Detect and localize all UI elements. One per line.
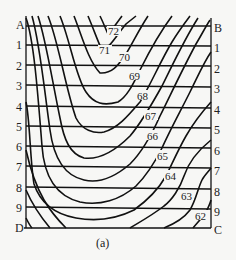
right-label-6: 6 <box>214 145 220 157</box>
row-label-3: 3 <box>16 80 22 92</box>
row-label-4: 4 <box>16 101 22 113</box>
contour-label-65: 65 <box>157 150 168 162</box>
contour-label-67: 67 <box>145 110 156 122</box>
contour-label-64: 64 <box>165 170 176 182</box>
row-label-8: 8 <box>16 182 22 194</box>
figure-caption: (a) <box>96 236 109 251</box>
right-label-C: C <box>214 224 222 236</box>
right-label-3: 3 <box>214 83 220 95</box>
row-label-6: 6 <box>16 141 22 153</box>
right-label-2: 2 <box>214 63 220 75</box>
row-label-7: 7 <box>16 161 22 173</box>
right-label-8: 8 <box>214 186 220 198</box>
right-label-4: 4 <box>214 104 220 116</box>
right-label-7: 7 <box>214 165 220 177</box>
row-label-5: 5 <box>16 121 22 133</box>
contour-label-72: 72 <box>108 25 119 37</box>
contour-label-66: 66 <box>147 130 158 142</box>
contour-label-71: 71 <box>99 44 110 56</box>
row-label-9: 9 <box>16 202 22 214</box>
contour-label-62: 62 <box>195 210 206 222</box>
contour-label-70: 70 <box>119 51 130 63</box>
contour-label-69: 69 <box>129 70 140 82</box>
contour-label-63: 63 <box>181 190 192 202</box>
right-label-9: 9 <box>214 206 220 218</box>
contour-diagram: A 1 2 3 4 5 6 7 8 9 D B 1 2 3 4 5 6 7 8 … <box>0 0 236 260</box>
row-label-2: 2 <box>16 60 22 72</box>
contour-label-68: 68 <box>137 90 148 102</box>
right-label-1: 1 <box>214 42 220 54</box>
row-label-D: D <box>15 222 24 234</box>
right-label-5: 5 <box>214 124 220 136</box>
row-label-1: 1 <box>16 39 22 51</box>
right-label-B: B <box>214 22 222 34</box>
row-label-A: A <box>16 19 25 31</box>
